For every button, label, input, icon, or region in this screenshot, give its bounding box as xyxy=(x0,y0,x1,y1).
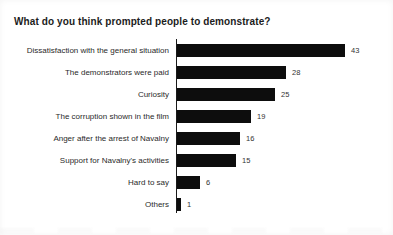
bar xyxy=(177,132,240,145)
category-label: Dissatisfaction with the general situati… xyxy=(0,46,176,55)
category-label: Others xyxy=(0,200,176,209)
bar-row: Curiosity25 xyxy=(0,83,393,105)
bar-row: The corruption shown in the film19 xyxy=(0,105,393,127)
chart-title: What do you think prompted people to dem… xyxy=(14,16,271,27)
value-label: 19 xyxy=(257,112,265,121)
value-label: 28 xyxy=(292,68,300,77)
category-label: Hard to say xyxy=(0,178,176,187)
scan-artifact xyxy=(0,228,393,233)
bar xyxy=(177,110,251,123)
value-label: 25 xyxy=(281,90,289,99)
bar-row: The demonstrators were paid28 xyxy=(0,61,393,83)
value-label: 6 xyxy=(206,178,210,187)
bar-row: Support for Navalny's activities15 xyxy=(0,149,393,171)
bar xyxy=(177,88,275,101)
bar-row: Dissatisfaction with the general situati… xyxy=(0,39,393,61)
bar xyxy=(177,66,286,79)
category-label: The demonstrators were paid xyxy=(0,68,176,77)
category-label: Curiosity xyxy=(0,90,176,99)
bar-rows: Dissatisfaction with the general situati… xyxy=(0,39,393,215)
bar xyxy=(177,198,181,211)
category-label: Anger after the arrest of Navalny xyxy=(0,134,176,143)
chart-container: What do you think prompted people to dem… xyxy=(0,0,393,235)
category-label: The corruption shown in the film xyxy=(0,112,176,121)
value-label: 43 xyxy=(351,46,359,55)
bar-row: Hard to say6 xyxy=(0,171,393,193)
value-label: 1 xyxy=(187,200,191,209)
bar xyxy=(177,154,236,167)
value-label: 15 xyxy=(242,156,250,165)
bar-row: Others1 xyxy=(0,193,393,215)
bar-chart-plot: Dissatisfaction with the general situati… xyxy=(0,39,393,215)
bar xyxy=(177,176,200,189)
category-label: Support for Navalny's activities xyxy=(0,156,176,165)
value-label: 16 xyxy=(246,134,254,143)
bar-row: Anger after the arrest of Navalny16 xyxy=(0,127,393,149)
bar xyxy=(177,44,345,57)
